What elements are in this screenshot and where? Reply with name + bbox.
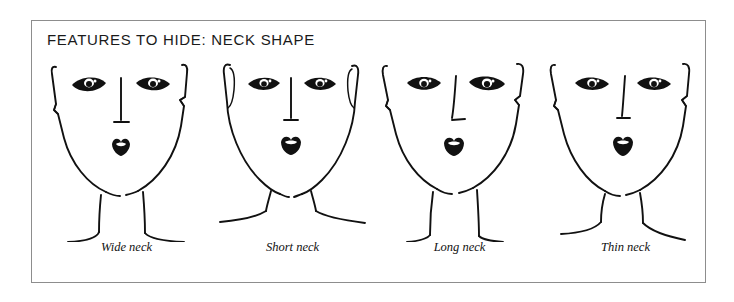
panel-wide-neck: Wide neck bbox=[44, 52, 209, 277]
right-ear-icon bbox=[682, 96, 687, 106]
mouth-icon bbox=[112, 139, 130, 156]
neck-line-right bbox=[477, 190, 479, 236]
right-eye-icon bbox=[136, 77, 170, 90]
right-eye-icon bbox=[469, 77, 505, 91]
neck-line-left bbox=[430, 192, 433, 235]
neck-line-right bbox=[143, 192, 145, 233]
face-drawing-wide-neck bbox=[44, 52, 209, 242]
nose-icon bbox=[452, 76, 465, 120]
right-eye-icon bbox=[637, 77, 671, 89]
panel-caption-short-neck: Short neck bbox=[210, 240, 375, 255]
neck-line-right bbox=[311, 191, 316, 211]
left-eye-icon bbox=[248, 78, 280, 90]
shoulder-right bbox=[316, 211, 365, 223]
panel-short-neck: Short neck bbox=[210, 52, 375, 277]
left-eye-icon bbox=[72, 78, 106, 92]
right-ear-icon bbox=[515, 96, 520, 105]
panel-thin-neck: Thin neck bbox=[543, 52, 708, 277]
figure-title: FEATURES TO HIDE: NECK SHAPE bbox=[47, 31, 315, 48]
neck-line-left bbox=[266, 191, 271, 211]
mouth-icon bbox=[444, 138, 464, 156]
chin-line bbox=[106, 192, 120, 196]
nose-icon bbox=[617, 76, 630, 118]
left-eye-icon bbox=[575, 77, 609, 89]
shoulder-left bbox=[220, 211, 266, 222]
panel-caption-thin-neck: Thin neck bbox=[543, 240, 708, 255]
neck-line-left bbox=[99, 195, 101, 232]
face-drawing-thin-neck bbox=[543, 52, 708, 242]
panel-caption-long-neck: Long neck bbox=[377, 240, 542, 255]
chin-line-right bbox=[126, 191, 138, 195]
mouth-icon bbox=[613, 137, 633, 156]
face-drawing-long-neck bbox=[377, 52, 542, 242]
right-ear-icon bbox=[348, 69, 354, 108]
panel-caption-wide-neck: Wide neck bbox=[44, 240, 209, 255]
figure-illustration-neck-shapes: FEATURES TO HIDE: NECK SHAPE bbox=[0, 0, 734, 302]
mouth-icon bbox=[281, 137, 301, 155]
nose-icon bbox=[284, 78, 298, 120]
chin-line bbox=[605, 191, 620, 196]
face-drawing-short-neck bbox=[210, 52, 375, 242]
chin-line-right bbox=[459, 188, 473, 193]
right-eye-icon bbox=[304, 78, 336, 90]
chin-line-right bbox=[626, 190, 640, 195]
chin-line-right bbox=[294, 194, 302, 197]
shoulder-left bbox=[561, 222, 601, 234]
left-eye-icon bbox=[407, 77, 441, 90]
chin-line bbox=[280, 194, 289, 197]
left-ear-icon bbox=[228, 68, 234, 108]
shoulder-right bbox=[643, 223, 685, 240]
neck-line-left bbox=[601, 194, 605, 222]
chin-line bbox=[437, 189, 452, 194]
nose-icon bbox=[114, 78, 129, 122]
panel-long-neck: Long neck bbox=[377, 52, 542, 277]
neck-line-right bbox=[640, 193, 643, 223]
